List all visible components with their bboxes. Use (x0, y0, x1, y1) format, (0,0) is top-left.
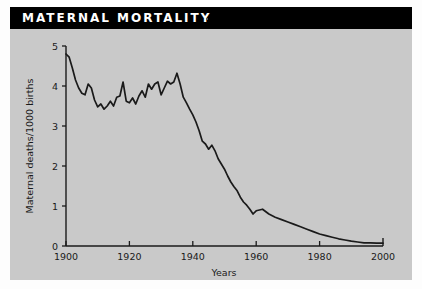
x-axis-tick-label: 2000 (371, 251, 395, 262)
x-axis-tick-label: 1940 (181, 251, 205, 262)
y-axis-tick-label: 5 (52, 41, 58, 52)
y-axis-tick-label: 1 (52, 201, 58, 212)
x-axis-tick-label: 1960 (244, 251, 268, 262)
axes (66, 46, 383, 246)
x-axis-tick-label: 1920 (117, 251, 141, 262)
chart-figure: MATERNAL MORTALITY 012345 19001920194019… (0, 0, 422, 289)
y-axis-tick-label: 0 (52, 241, 58, 252)
y-axis-tick-label: 2 (52, 161, 58, 172)
x-axis-title: Years (210, 267, 236, 278)
x-axis-tick-label: 1980 (308, 251, 332, 262)
data-series-line (66, 54, 383, 243)
y-axis-title: Maternal deaths/1000 births (24, 79, 35, 214)
plot-area: 012345 190019201940196019802000 Maternal… (0, 0, 422, 289)
x-axis-ticks: 190019201940196019802000 (54, 241, 395, 262)
y-axis-ticks: 012345 (52, 41, 66, 252)
y-axis-tick-label: 4 (52, 81, 58, 92)
x-axis-tick-label: 1900 (54, 251, 78, 262)
y-axis-tick-label: 3 (52, 121, 58, 132)
